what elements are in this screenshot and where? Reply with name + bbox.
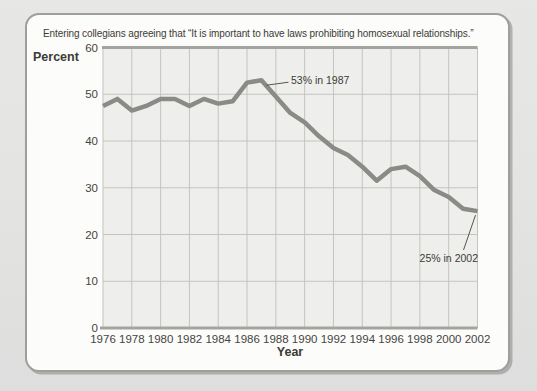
annotation-peak-1987: 53% in 1987 [291, 74, 349, 86]
y-tick-label: 60 [85, 42, 98, 54]
x-tick-label: 2002 [465, 333, 491, 345]
page-background: Entering collegians agreeing that “It is… [0, 0, 537, 391]
x-tick-label: 1978 [119, 333, 145, 345]
x-tick-label: 1986 [234, 333, 260, 345]
y-tick-label: 40 [85, 135, 98, 147]
y-tick-label: 30 [85, 182, 98, 194]
x-tick-label: 1982 [177, 333, 203, 345]
x-tick-label: 1990 [292, 333, 318, 345]
x-tick-label: 1984 [205, 333, 231, 345]
y-tick-label: 20 [85, 229, 98, 241]
x-tick-label: 1980 [148, 333, 174, 345]
x-tick-label: 1976 [90, 333, 116, 345]
x-tick-label: 1992 [321, 333, 347, 345]
chart-plot: 0102030405060197619781980198219841986198… [0, 0, 537, 391]
x-tick-label: 1996 [378, 333, 404, 345]
y-tick-label: 10 [85, 275, 98, 287]
y-tick-label: 50 [85, 88, 98, 100]
x-tick-label: 1998 [407, 333, 433, 345]
x-tick-label: 1994 [349, 333, 375, 345]
annotation-end-2002: 25% in 2002 [420, 252, 478, 264]
x-axis-title: Year [103, 345, 477, 359]
x-tick-label: 2000 [436, 333, 462, 345]
x-tick-label: 1988 [263, 333, 289, 345]
